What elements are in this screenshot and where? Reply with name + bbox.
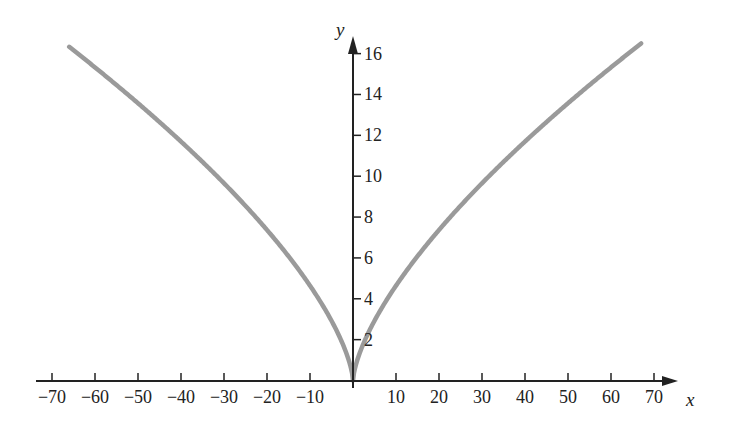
y-tick-label: 2 — [364, 330, 373, 350]
x-tick-label: −20 — [253, 387, 281, 407]
y-tick-label: 10 — [364, 166, 382, 186]
x-tick-label: −10 — [296, 387, 324, 407]
y-tick-label: 16 — [364, 44, 382, 64]
x-tick-label: −60 — [81, 387, 109, 407]
y-tick-label: 12 — [364, 125, 382, 145]
y-tick-label: 6 — [364, 248, 373, 268]
x-tick-label: −40 — [167, 387, 195, 407]
x-tick-label: 20 — [430, 387, 448, 407]
chart-canvas: x y −70−60−50−40−30−20−1010203040506070 … — [0, 0, 735, 431]
y-tick-label: 8 — [364, 207, 373, 227]
y-axis-label: y — [334, 19, 345, 40]
x-tick-label: 10 — [387, 387, 405, 407]
y-axis-arrow-icon — [348, 36, 358, 54]
x-tick-label: 70 — [645, 387, 663, 407]
y-ticks: 246810121416 — [353, 44, 382, 350]
x-tick-label: 30 — [473, 387, 491, 407]
x-tick-label: 50 — [559, 387, 577, 407]
x-tick-label: 40 — [516, 387, 534, 407]
x-axis-label: x — [685, 389, 695, 410]
y-tick-label: 14 — [364, 84, 382, 104]
x-tick-label: −70 — [38, 387, 66, 407]
x-tick-label: 60 — [602, 387, 620, 407]
x-tick-label: −30 — [210, 387, 238, 407]
y-tick-label: 4 — [364, 289, 373, 309]
x-axis-arrow-icon — [662, 376, 678, 386]
x-tick-label: −50 — [124, 387, 152, 407]
